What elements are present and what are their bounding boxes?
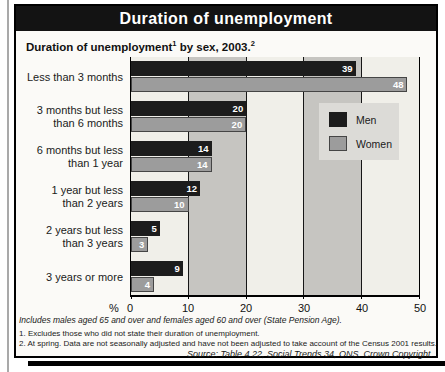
women-color-swatch: [329, 136, 347, 151]
plot-background-band: [189, 57, 247, 295]
bar-men-1: 39: [131, 61, 356, 76]
category-label: 3 months but lessthan 6 months: [16, 97, 128, 137]
bar-men-4: 12: [131, 181, 200, 196]
gridline-20: [246, 57, 247, 295]
gridline-30: [303, 57, 304, 295]
bar-men-3: 14: [131, 141, 212, 156]
footnote-2: 2. At spring. Data are not seasonally ad…: [19, 339, 437, 348]
x-tick-label-0: 0: [127, 302, 133, 314]
bar-men-6: 9: [131, 261, 183, 276]
x-tick-label-50: 50: [414, 302, 426, 314]
bar-value-label: 5: [152, 223, 160, 234]
bar-value-label: 3: [139, 239, 147, 250]
category-label: 1 year but lessthan 2 years: [16, 177, 128, 217]
legend-item-women: Women: [329, 136, 399, 151]
bar-women-2: 20: [131, 117, 246, 132]
category-label: 2 years but lessthan 3 years: [16, 217, 128, 257]
category-label: 6 months but lessthan 1 year: [16, 137, 128, 177]
bar-value-label: 48: [393, 79, 407, 90]
bar-women-1: 48: [131, 77, 407, 92]
legend-label-women: Women: [356, 138, 392, 150]
page-edge-line: [7, 0, 9, 372]
axis-tick-50: [419, 295, 420, 299]
chart-subtitle: Duration of unemployment1 by sex, 2003.2: [26, 39, 255, 53]
x-tick-label-20: 20: [240, 302, 252, 314]
panel-header: Duration of unemployment: [16, 6, 436, 31]
source-citation: Source: Table 4.22, Social Trends 34, ON…: [187, 349, 433, 359]
subtitle-text: Duration of unemployment: [26, 41, 172, 53]
bar-value-label: 12: [187, 183, 201, 194]
category-label: Less than 3 months: [16, 57, 128, 97]
chart-title: Duration of unemployment: [119, 6, 332, 31]
x-tick-label-10: 10: [182, 302, 194, 314]
plot-background-band: [361, 57, 419, 295]
bar-women-4: 10: [131, 197, 189, 212]
category-label: 3 years or more: [16, 257, 128, 297]
legend-label-men: Men: [356, 114, 376, 126]
bar-men-5: 5: [131, 221, 160, 236]
x-tick-label-30: 30: [298, 302, 310, 314]
bar-men-2: 20: [131, 101, 246, 116]
footnote-1: 1. Excludes those who did not state thei…: [19, 329, 260, 338]
gridline-40: [361, 57, 362, 295]
axis-tick-30: [303, 295, 304, 299]
chart-panel: Duration of unemployment Duration of une…: [14, 4, 438, 358]
bar-women-5: 3: [131, 237, 148, 252]
bar-value-label: 4: [145, 279, 153, 290]
bar-value-label: 20: [233, 103, 247, 114]
bar-value-label: 10: [174, 199, 188, 210]
bar-value-label: 14: [197, 159, 211, 170]
page-background: Duration of unemployment Duration of une…: [0, 0, 445, 372]
page-bottom-rule: [28, 361, 445, 366]
percent-axis-label: %: [109, 302, 119, 314]
plot-area: Men Women 39482020141412105394: [130, 57, 420, 297]
x-tick-label-40: 40: [356, 302, 368, 314]
men-color-swatch: [329, 112, 347, 127]
bar-women-6: 4: [131, 277, 154, 292]
axis-tick-40: [361, 295, 362, 299]
x-axis-labels: 01020304050: [130, 302, 420, 314]
bar-value-label: 9: [175, 263, 183, 274]
plot-background-band: [131, 57, 189, 295]
pension-age-note: Includes males aged 65 and over and fema…: [19, 315, 342, 325]
bar-value-label: 20: [232, 119, 246, 130]
bar-value-label: 39: [342, 63, 356, 74]
subtitle-superscript-2: 2: [251, 39, 255, 48]
plot-background-band: [304, 57, 362, 295]
category-labels: Less than 3 months3 months but lessthan …: [16, 57, 128, 297]
axis-tick-20: [246, 295, 247, 299]
legend-item-men: Men: [329, 112, 399, 127]
subtitle-text: by sex, 2003.: [176, 41, 250, 53]
axis-tick-10: [188, 295, 189, 299]
gridline-10: [188, 57, 189, 295]
bar-women-3: 14: [131, 157, 212, 172]
legend: Men Women: [319, 103, 399, 160]
axis-tick-0: [131, 295, 132, 299]
plot-background-band: [246, 57, 304, 295]
bar-value-label: 14: [198, 143, 212, 154]
